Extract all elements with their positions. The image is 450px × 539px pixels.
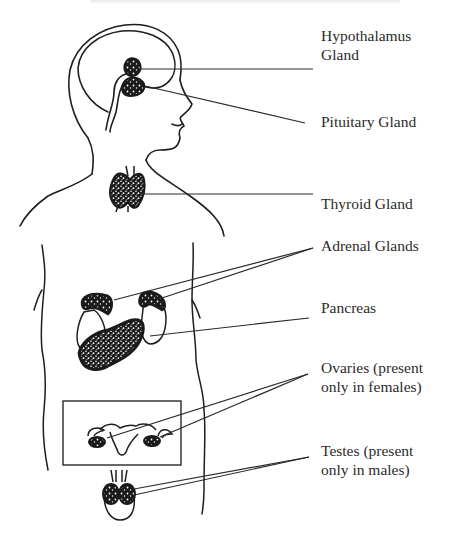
pituitary-gland xyxy=(122,78,144,96)
label-thyroid: Thyroid Gland xyxy=(321,194,413,213)
hypothalamus-gland xyxy=(124,58,140,76)
leader-pancreas xyxy=(150,318,309,336)
leader-ovary-left xyxy=(107,374,308,438)
label-ovaries: Ovaries (present only in females) xyxy=(321,358,423,396)
thyroid-gland xyxy=(110,166,144,212)
label-hypothalamus: Hypothalamus Gland xyxy=(321,26,411,64)
ovary-left xyxy=(89,437,105,447)
leader-adrenal-left xyxy=(114,248,313,300)
label-pituitary: Pituitary Gland xyxy=(321,112,416,131)
leader-pituitary xyxy=(145,86,305,123)
leader-testis-top xyxy=(134,457,309,489)
leader-ovary-right xyxy=(160,374,308,437)
leader-adrenal-right xyxy=(162,248,313,298)
label-pancreas: Pancreas xyxy=(321,298,376,317)
endocrine-diagram: Hypothalamus Gland Pituitary Gland Thyro… xyxy=(0,0,450,539)
label-adrenal: Adrenal Glands xyxy=(321,236,419,255)
torso-outline xyxy=(34,243,205,514)
testes xyxy=(103,470,135,520)
leader-testis-bottom xyxy=(134,457,309,495)
leader-lines xyxy=(107,69,313,495)
ovary-right xyxy=(144,436,160,446)
label-testes: Testes (present only in males) xyxy=(321,441,413,479)
